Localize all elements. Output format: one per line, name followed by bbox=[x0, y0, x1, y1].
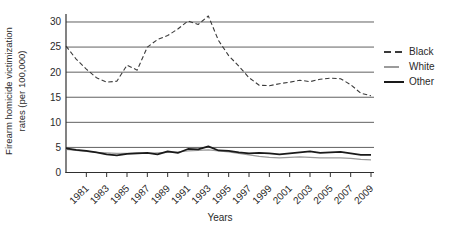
x-tick-label-1981: 1981 bbox=[67, 182, 91, 206]
legend-item-black: Black bbox=[384, 44, 435, 59]
series-black-line bbox=[66, 16, 371, 96]
line-chart-canvas: 1981198319851987198919911993199519971999… bbox=[0, 0, 456, 233]
x-tick-label-1991: 1991 bbox=[169, 182, 193, 206]
x-tick-label-1997: 1997 bbox=[230, 182, 254, 206]
y-axis-title-line2: rates (per 100,000) bbox=[15, 6, 28, 176]
y-axis-title-line1: Firearm homicide victimization bbox=[2, 6, 15, 176]
legend-item-other: Other bbox=[384, 74, 435, 89]
y-axis-title: Firearm homicide victimization rates (pe… bbox=[2, 6, 28, 176]
legend-label-white: White bbox=[404, 61, 435, 72]
y-tick-label-5: 5 bbox=[55, 142, 61, 153]
black-dashed-line-sample bbox=[384, 51, 404, 53]
x-tick-label-2007: 2007 bbox=[332, 182, 356, 206]
x-tick-label-1993: 1993 bbox=[189, 182, 213, 206]
x-tick-label-2003: 2003 bbox=[291, 182, 315, 206]
legend-label-other: Other bbox=[404, 76, 434, 87]
x-tick-label-2009: 2009 bbox=[352, 182, 376, 206]
y-tick-label-20: 20 bbox=[50, 67, 62, 78]
y-tick-label-25: 25 bbox=[50, 41, 62, 52]
white-line-sample bbox=[384, 66, 399, 68]
legend: Black White Other bbox=[384, 44, 435, 89]
y-tick-label-30: 30 bbox=[50, 16, 62, 27]
y-tick-label-15: 15 bbox=[50, 92, 62, 103]
chart-figure: 1981198319851987198919911993199519971999… bbox=[0, 0, 456, 233]
x-tick-label-1985: 1985 bbox=[108, 182, 132, 206]
x-tick-label-1987: 1987 bbox=[128, 182, 152, 206]
x-tick-label-1983: 1983 bbox=[88, 182, 112, 206]
x-tick-label-2005: 2005 bbox=[311, 182, 335, 206]
x-tick-label-1995: 1995 bbox=[210, 182, 234, 206]
y-tick-label-0: 0 bbox=[55, 167, 61, 178]
y-tick-label-10: 10 bbox=[50, 117, 62, 128]
legend-label-black: Black bbox=[404, 46, 433, 57]
x-axis-title: Years bbox=[66, 212, 374, 223]
x-tick-label-1989: 1989 bbox=[149, 182, 173, 206]
other-line-sample bbox=[384, 81, 404, 83]
x-tick-label-2001: 2001 bbox=[271, 182, 295, 206]
x-tick-label-1999: 1999 bbox=[250, 182, 274, 206]
legend-item-white: White bbox=[384, 59, 435, 74]
